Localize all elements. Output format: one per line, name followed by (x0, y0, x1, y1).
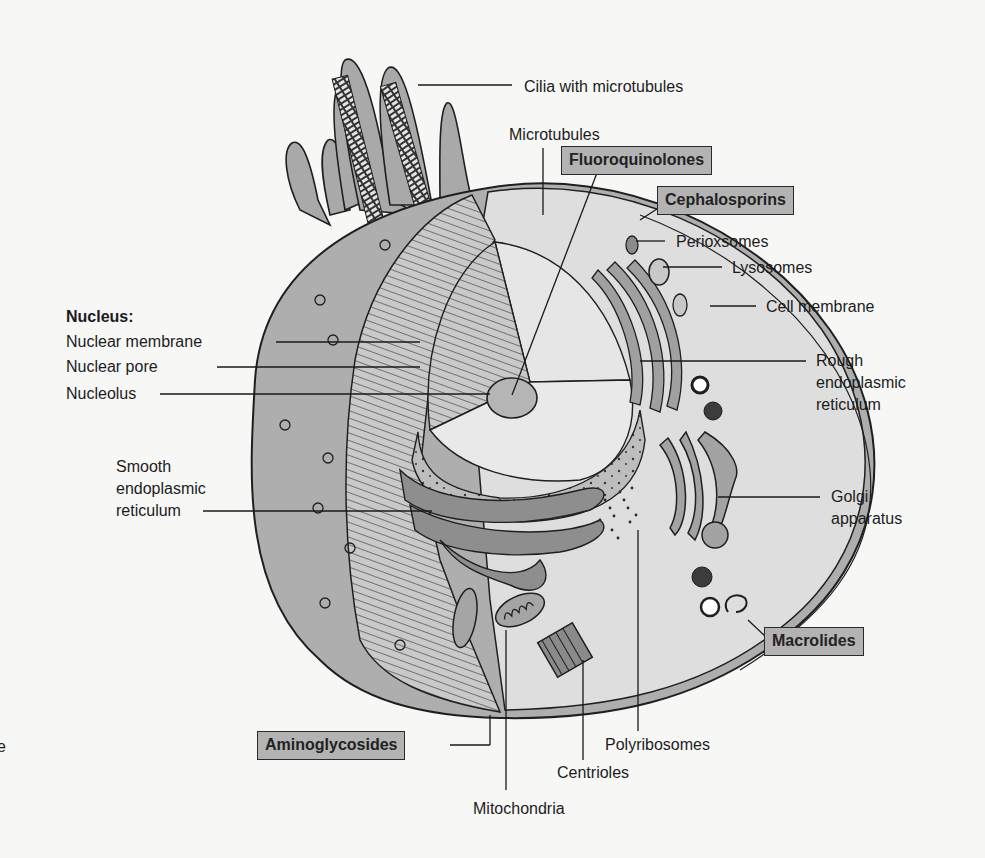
label-nucleus-heading: Nucleus: (66, 307, 134, 326)
label-edge-fragment: e (0, 737, 6, 756)
drug-box-fluoroquinolones: Fluoroquinolones (561, 146, 712, 175)
drug-box-macrolides: Macrolides (764, 627, 864, 656)
nucleolus (487, 378, 537, 418)
label-nucleolus: Nucleolus (66, 384, 136, 403)
drug-box-cephalosporins: Cephalosporins (657, 186, 794, 215)
label-lysosomes: Lysosomes (732, 258, 812, 277)
label-polyribosomes: Polyribosomes (605, 735, 710, 754)
cell-illustration (0, 0, 985, 858)
label-microtubules: Microtubules (509, 125, 600, 144)
label-nuclear-pore: Nuclear pore (66, 357, 158, 376)
label-nuclear-membrane: Nuclear membrane (66, 332, 202, 351)
label-centrioles: Centrioles (557, 763, 629, 782)
label-smooth-er: Smooth endoplasmic reticulum (116, 456, 206, 522)
label-perioxsomes: Perioxsomes (676, 232, 768, 251)
label-golgi: Golgi apparatus (831, 486, 902, 530)
label-mitochondria: Mitochondria (473, 799, 565, 818)
label-cell-membrane: Cell membrane (766, 297, 874, 316)
label-rough-er: Rough endoplasmic reticulum (816, 350, 906, 416)
drug-box-aminoglycosides: Aminoglycosides (257, 731, 405, 760)
label-cilia: Cilia with microtubules (524, 77, 683, 96)
